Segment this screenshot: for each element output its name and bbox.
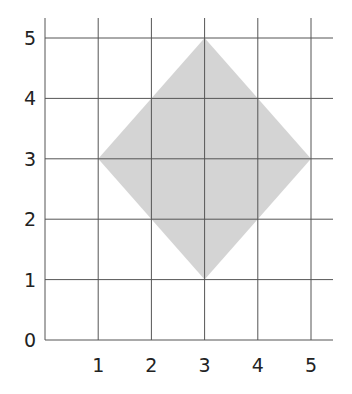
- y-tick-label: 5: [24, 27, 36, 49]
- x-tick-label: 2: [145, 354, 157, 376]
- y-tick-label: 1: [24, 269, 36, 291]
- y-tick-label: 2: [24, 208, 36, 230]
- y-tick-label: 4: [24, 87, 36, 109]
- x-tick-label: 5: [305, 354, 317, 376]
- y-tick-label: 0: [24, 329, 36, 351]
- x-tick-label: 1: [92, 354, 104, 376]
- x-tick-label: 4: [252, 354, 264, 376]
- x-tick-label: 3: [199, 354, 211, 376]
- y-tick-label: 3: [24, 148, 36, 170]
- y-axis-tick-labels: 012345: [24, 27, 36, 351]
- coordinate-grid-chart: 12345 012345: [0, 0, 352, 394]
- x-axis-tick-labels: 12345: [92, 354, 317, 376]
